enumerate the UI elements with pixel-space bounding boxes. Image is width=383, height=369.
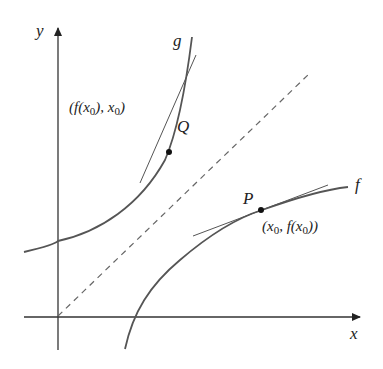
y-axis-label: y (36, 22, 44, 39)
curve-g (24, 37, 192, 252)
curve-f (125, 187, 348, 349)
x-axis-label: x (350, 325, 358, 342)
curve-g-label: g (173, 32, 182, 49)
inverse-function-diagram (0, 0, 383, 369)
curve-f-label: f (355, 176, 360, 193)
point-p (258, 207, 264, 213)
point-p-coordinates: (x0, f(x0)) (262, 219, 318, 236)
point-p-label: P (243, 190, 253, 207)
point-q-coordinates: (f(x0), x0) (69, 100, 125, 117)
point-q (166, 149, 172, 155)
point-q-label: Q (177, 118, 189, 135)
